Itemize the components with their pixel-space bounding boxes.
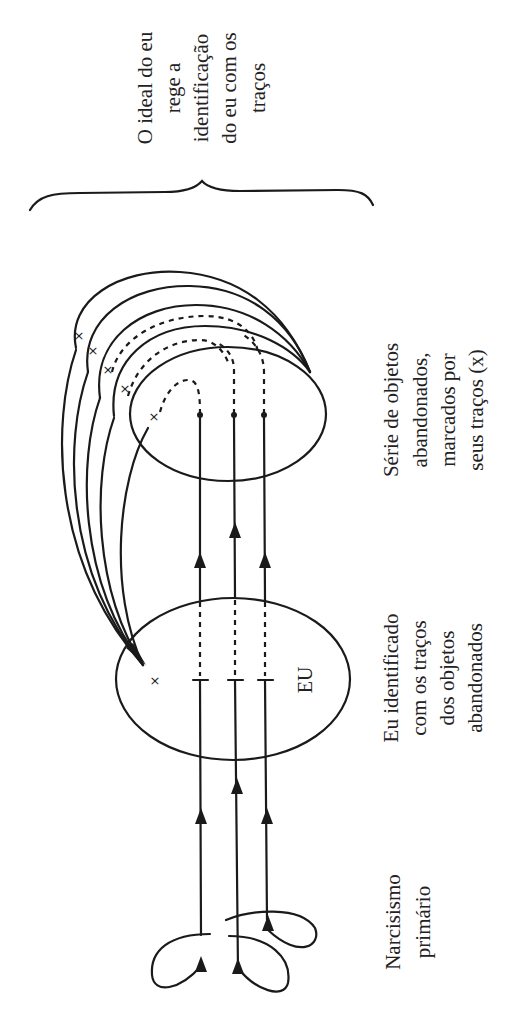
label-objects-line-4: seus traços (x) [464,349,488,470]
trace-mark-2: × [88,343,99,358]
arrow-up-icon [259,552,271,568]
object-arc-4-dashed [112,316,258,372]
libido-lines [193,418,273,970]
label-objects-line-1: Série de objetos [379,343,403,477]
label-objects: Série de objetos abandonados, marcados p… [379,343,488,477]
label-ego: Eu identificado com os traços dos objeto… [379,614,487,743]
line-2-upper [234,418,235,598]
dashed-continuation-2 [216,342,234,414]
ego-trace-mark: × [150,673,161,688]
ego-label: EU [294,666,316,693]
label-ideal-line-4: do eu com os [217,32,241,143]
label-ideal-line-1: O ideal do eu [133,31,157,144]
trace-mark-3: × [103,362,114,377]
object-arc-5 [113,326,310,416]
label-narcissism-line-2: primário [411,886,435,958]
label-ideal-line-3: identificação [189,34,213,142]
arrow-up-icon [261,808,273,824]
curly-brace [30,181,373,210]
trace-mark-4: × [120,381,131,396]
trace-mark-1: × [74,328,85,343]
label-ego-line-2: com os traços [407,620,431,735]
label-ideal-line-5: traços [246,63,270,113]
label-ego-line-4: abandonados [463,623,487,733]
narcissism-loops [152,912,316,992]
line-3-upper [264,418,265,600]
object-arc-2 [87,286,310,372]
dashed-continuation-3 [242,334,264,414]
label-objects-line-2: abandonados, [408,353,432,468]
arrow-up-icon [262,915,274,931]
label-ego-line-3: dos objetos [435,630,459,725]
label-ideal-line-2: rege a [161,62,185,113]
arrow-up-icon [195,808,207,824]
label-ideal: O ideal do eu rege a identificação do eu… [133,31,270,144]
line-1-lower [200,680,201,935]
object-inner-dashed-loop [160,380,200,414]
freud-ego-ideal-diagram: O ideal do eu rege a identificação do eu… [0,0,511,1033]
arrow-up-icon [194,552,206,568]
identification-curves [62,350,148,665]
line-2-lower [235,680,238,970]
label-narcissism-line-1: Narcisismo [381,874,405,970]
label-ego-line-1: Eu identificado [379,614,403,743]
identification-curve-1 [62,350,143,665]
arrow-up-icon [231,778,243,794]
label-objects-line-3: marcados por [436,353,460,467]
line-3-lower [265,680,267,920]
label-narcissism: Narcisismo primário [381,874,435,970]
trace-mark-5: × [149,409,160,424]
arrow-up-icon [229,522,241,538]
identification-curve-2 [74,372,143,665]
